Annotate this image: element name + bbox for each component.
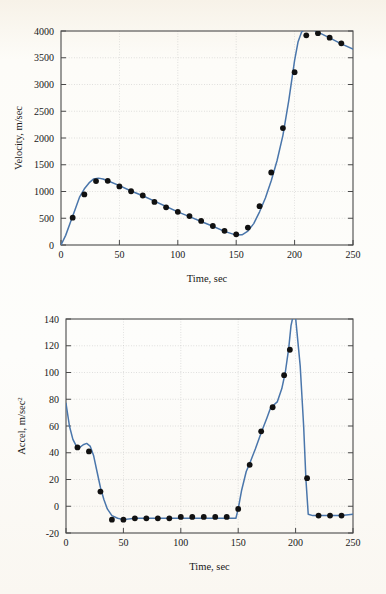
data-point-marker [338, 40, 344, 46]
x-tick-label: 250 [346, 249, 361, 260]
data-point-marker [117, 184, 123, 190]
y-tick-label: 1500 [34, 159, 54, 170]
data-point-marker [258, 428, 264, 434]
y-axis-title: Accel, m/sec2 [16, 397, 27, 455]
data-point-marker [281, 372, 287, 378]
data-point-marker [212, 514, 218, 520]
x-axis-title: Time, sec [187, 273, 228, 284]
axis-ticks: 0500100015002000250030003500400005010015… [34, 26, 361, 260]
y-tick-label: 20 [49, 474, 59, 485]
data-point-marker [316, 513, 322, 519]
y-tick-label: 500 [39, 213, 54, 224]
data-point-marker [93, 178, 99, 184]
x-tick-label: 250 [346, 537, 361, 548]
data-layer [61, 28, 353, 245]
data-point-marker [224, 514, 230, 520]
y-tick-label: -20 [46, 528, 59, 539]
x-axis-title: Time, sec [189, 561, 230, 572]
data-point-marker [189, 514, 195, 520]
data-point-marker [121, 517, 127, 523]
y-tick-label: 2000 [34, 133, 54, 144]
y-tick-label: 0 [54, 501, 59, 512]
data-point-marker [327, 513, 333, 519]
data-point-marker [247, 462, 253, 468]
data-point-marker [245, 225, 251, 231]
data-point-marker [132, 515, 138, 521]
data-point-marker [327, 35, 333, 41]
grid-lines [66, 319, 353, 533]
data-point-marker [70, 215, 76, 221]
y-tick-label: 120 [44, 340, 59, 351]
data-point-marker [233, 231, 239, 237]
y-tick-label: 3500 [34, 52, 54, 63]
data-point-marker [152, 199, 158, 205]
data-point-marker [222, 228, 228, 234]
data-layer [66, 315, 353, 523]
data-point-marker [257, 203, 263, 209]
x-tick-label: 50 [118, 537, 128, 548]
data-point-marker [128, 188, 134, 194]
data-point-marker [163, 204, 169, 210]
axis-ticks: -20020406080100120140050100150200250 [44, 314, 361, 548]
x-tick-label: 0 [64, 537, 69, 548]
data-point-marker [235, 506, 241, 512]
grid-lines [61, 31, 353, 245]
x-tick-label: 150 [231, 537, 246, 548]
velocity-plot-svg: 0500100015002000250030003500400005010015… [0, 0, 386, 297]
y-tick-label: 0 [49, 240, 54, 251]
x-tick-label: 200 [287, 249, 302, 260]
data-point-marker [287, 347, 293, 353]
data-point-marker [178, 514, 184, 520]
data-point-marker [109, 517, 115, 523]
data-point-marker [140, 193, 146, 199]
data-point-marker [339, 513, 345, 519]
x-tick-label: 100 [170, 249, 185, 260]
x-tick-label: 0 [59, 249, 64, 260]
data-point-marker [187, 213, 193, 219]
x-tick-label: 200 [288, 537, 303, 548]
y-axis-title: Velocity, m/sec [13, 106, 24, 170]
y-tick-label: 3000 [34, 79, 54, 90]
y-tick-label: 4000 [34, 26, 54, 37]
data-point-marker [143, 515, 149, 521]
y-tick-label: 60 [49, 421, 59, 432]
data-point-marker [175, 209, 181, 215]
data-point-marker [86, 449, 92, 455]
acceleration-chart: -20020406080100120140050100150200250Time… [0, 297, 386, 594]
data-point-marker [304, 475, 310, 481]
y-tick-label: 40 [49, 447, 59, 458]
y-tick-label: 80 [49, 394, 59, 405]
y-tick-label: 100 [44, 367, 59, 378]
y-tick-label: 1000 [34, 186, 54, 197]
data-point-marker [105, 178, 111, 184]
x-tick-label: 150 [229, 249, 244, 260]
acceleration-plot-svg: -20020406080100120140050100150200250Time… [0, 297, 386, 594]
data-point-marker [315, 30, 321, 36]
data-point-marker [166, 515, 172, 521]
data-point-marker [198, 218, 204, 224]
data-point-marker [81, 192, 87, 198]
data-point-marker [303, 32, 309, 38]
data-point-marker [155, 515, 161, 521]
x-tick-label: 100 [173, 537, 188, 548]
data-point-marker [292, 69, 298, 75]
data-point-marker [280, 125, 286, 131]
velocity-chart: 0500100015002000250030003500400005010015… [0, 0, 386, 297]
data-point-marker [210, 223, 216, 229]
data-point-marker [270, 404, 276, 410]
data-point-marker [75, 445, 81, 451]
y-tick-label: 140 [44, 314, 59, 325]
data-point-marker [98, 489, 104, 495]
series-line [61, 28, 353, 245]
y-tick-label: 2500 [34, 106, 54, 117]
data-point-marker [201, 514, 207, 520]
data-point-marker [268, 170, 274, 176]
x-tick-label: 50 [114, 249, 124, 260]
